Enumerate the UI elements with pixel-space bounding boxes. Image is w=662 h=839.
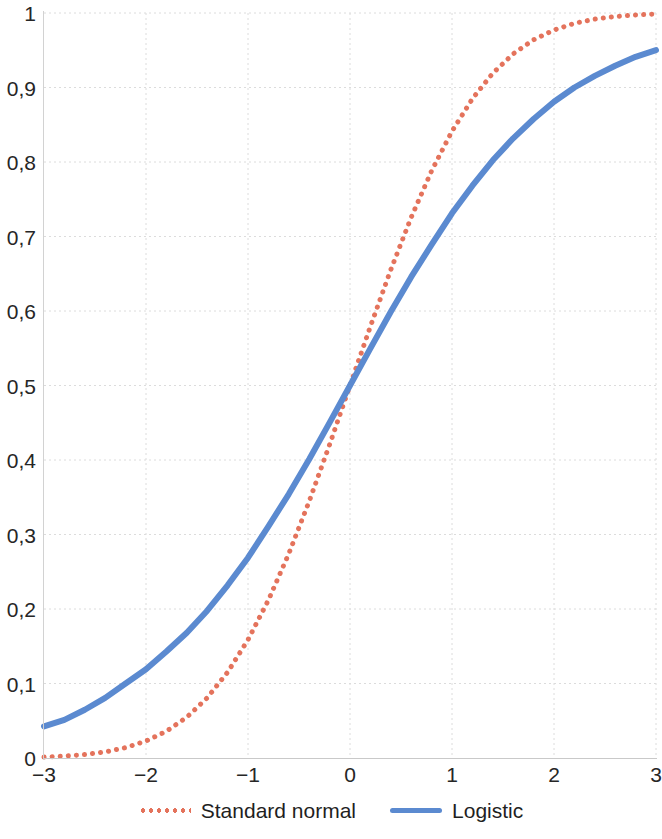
y-axis-tick-label: 0,3 [0, 524, 36, 545]
legend-label-logistic: Logistic [452, 800, 523, 821]
legend-label-standard-normal: Standard normal [201, 800, 356, 821]
x-axis-tick-label: 3 [650, 764, 662, 785]
y-axis-tick-label: 0,6 [0, 301, 36, 322]
y-axis-tick-label: 0,1 [0, 673, 36, 694]
y-axis-tick-label: 0,4 [0, 450, 36, 471]
y-axis-tick-label: 0,7 [0, 226, 36, 247]
y-axis-tick-labels: 00,10,20,30,40,50,60,70,80,91 [0, 0, 36, 839]
x-axis-line [43, 758, 657, 759]
y-axis-tick-label: 1 [0, 3, 36, 24]
plot-canvas [0, 0, 662, 839]
legend-item-logistic[interactable]: Logistic [390, 800, 523, 821]
x-axis-tick-label: −2 [134, 764, 158, 785]
x-axis-tick-label: 1 [446, 764, 458, 785]
x-axis-tick-label: −1 [236, 764, 260, 785]
y-axis-tick-label: 0,2 [0, 599, 36, 620]
y-axis-tick-label: 0,8 [0, 152, 36, 173]
chart-root: 00,10,20,30,40,50,60,70,80,91 −3−2−10123… [0, 0, 662, 839]
y-axis-tick-label: 0,9 [0, 77, 36, 98]
legend-item-standard-normal[interactable]: Standard normal [139, 800, 356, 821]
x-axis-tick-label: 0 [344, 764, 356, 785]
y-axis-tick-label: 0,5 [0, 375, 36, 396]
dotted-line-icon [139, 808, 191, 813]
solid-line-icon [390, 808, 442, 813]
x-axis-tick-label: −3 [32, 764, 56, 785]
chart-legend: Standard normal Logistic [0, 800, 662, 821]
y-axis-tick-label: 0 [0, 748, 36, 769]
x-axis-tick-label: 2 [548, 764, 560, 785]
y-axis-line [43, 11, 44, 760]
